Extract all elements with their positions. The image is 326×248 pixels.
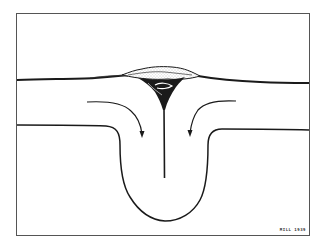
surface-line-right [198, 76, 309, 83]
artist-signature: MILL 1939 [280, 227, 306, 232]
central-plume [164, 108, 165, 178]
arrowhead-down-icon [140, 131, 145, 138]
arrowhead-down-icon [188, 130, 193, 137]
lower-boundary [17, 125, 309, 221]
convergence-core [138, 77, 185, 110]
flow-arrow-right [190, 101, 236, 133]
convergence-diagram [0, 0, 326, 248]
surface-accumulation [122, 67, 200, 80]
